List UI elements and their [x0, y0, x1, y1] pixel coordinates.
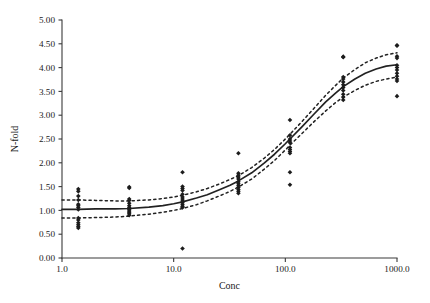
- lower-confidence-band: [62, 77, 397, 218]
- data-point: [180, 246, 185, 251]
- y-tick-label: 1.50: [39, 182, 55, 192]
- x-tick-label: 10.0: [166, 264, 182, 274]
- upper-confidence-band: [62, 53, 397, 201]
- data-point: [76, 189, 81, 194]
- y-tick-label: 0.00: [39, 253, 55, 263]
- data-point: [76, 198, 81, 203]
- y-axis-ticks: 0.000.501.001.502.002.503.003.504.004.50…: [39, 15, 62, 263]
- confidence-band-group: [62, 53, 397, 218]
- data-point: [236, 151, 241, 156]
- y-tick-label: 0.50: [39, 229, 55, 239]
- scatter-plot-figure: 0.000.501.001.502.002.503.003.504.004.50…: [0, 0, 430, 303]
- sigmoid-fit-curve: [62, 65, 397, 210]
- x-tick-label: 1000.0: [384, 264, 410, 274]
- y-axis-title: N-fold: [9, 126, 20, 153]
- x-axis-ticks: 1.010.0100.01000.0: [56, 258, 410, 274]
- data-point: [288, 118, 293, 123]
- y-tick-label: 4.50: [39, 39, 55, 49]
- x-axis-group: 1.010.0100.01000.0: [56, 258, 410, 274]
- y-axis-group: 0.000.501.001.502.002.503.003.504.004.50…: [39, 15, 62, 263]
- y-tick-label: 1.00: [39, 206, 55, 216]
- x-tick-label: 100.0: [275, 264, 296, 274]
- chart-canvas: 0.000.501.001.502.002.503.003.504.004.50…: [0, 0, 430, 303]
- data-point: [288, 170, 293, 175]
- x-axis-title: Conc: [219, 280, 241, 291]
- y-tick-label: 2.00: [39, 158, 55, 168]
- data-point: [341, 98, 346, 103]
- data-point: [395, 94, 400, 99]
- y-tick-label: 2.50: [39, 134, 55, 144]
- y-tick-label: 3.50: [39, 87, 55, 97]
- data-point: [288, 182, 293, 187]
- data-point: [395, 43, 400, 48]
- data-point-group: [76, 43, 399, 251]
- data-point: [180, 170, 185, 175]
- y-tick-label: 4.00: [39, 63, 55, 73]
- y-tick-label: 5.00: [39, 15, 55, 25]
- data-point: [341, 55, 346, 60]
- y-tick-label: 3.00: [39, 110, 55, 120]
- x-tick-label: 1.0: [56, 264, 68, 274]
